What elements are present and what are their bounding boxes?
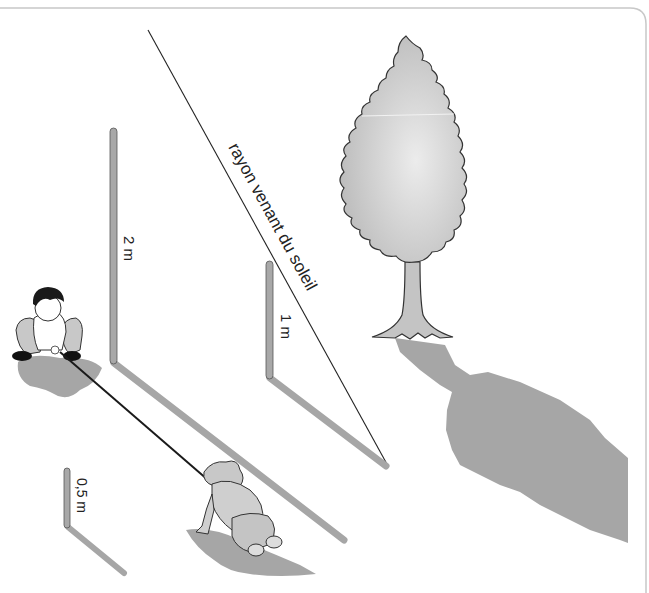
sun-ray-line (148, 30, 388, 466)
stick-1m (266, 261, 273, 379)
tree-shadow (395, 338, 628, 543)
tree-trunk (372, 262, 453, 339)
stick-2m-label: 2 m (121, 236, 138, 261)
tree-crown (340, 36, 467, 262)
stick-05m-shadow (68, 527, 124, 573)
stick-05m-label: 0,5 m (74, 478, 90, 513)
stick-05m (64, 468, 70, 528)
child-crouching-figure (12, 287, 82, 361)
stick-2m (110, 128, 117, 364)
shadow-measurement-diagram: rayon venant du soleil 2 m 1 m 0,5 m (0, 0, 649, 593)
stick-1m-label: 1 m (278, 314, 295, 339)
stick-1m-shadow (270, 378, 386, 466)
